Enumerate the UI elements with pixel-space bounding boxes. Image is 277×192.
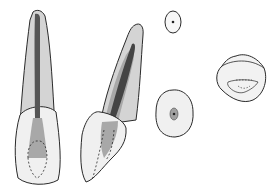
canal-dot [172, 21, 175, 24]
tooth-diagram [0, 0, 277, 192]
tooth-labial-view [15, 10, 60, 184]
root-canal [35, 14, 40, 118]
occlusal-outline [217, 55, 266, 102]
tooth-proximal-view [81, 24, 143, 182]
cross-section-apical [165, 11, 181, 33]
cross-section-cervical [156, 90, 193, 137]
occlusal-view [217, 55, 266, 102]
canal-dot [173, 113, 176, 116]
